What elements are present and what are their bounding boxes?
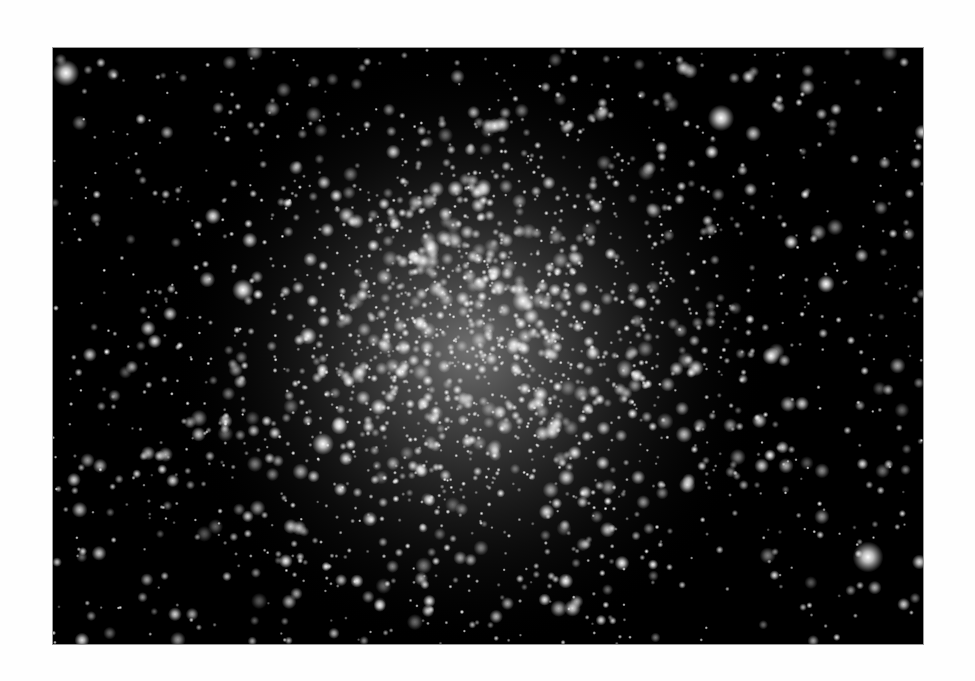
page [0, 0, 975, 681]
star-field-canvas [53, 48, 923, 644]
star-cluster-photo [53, 48, 923, 644]
